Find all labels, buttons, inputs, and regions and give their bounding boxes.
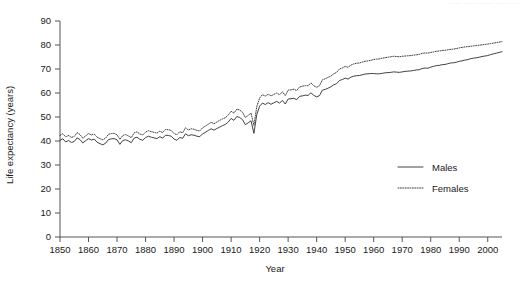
y-tick-label: 60 xyxy=(40,87,51,98)
x-tick-label: 1930 xyxy=(278,244,299,255)
x-tick-label: 1940 xyxy=(306,244,327,255)
chart-legend: Males Females xyxy=(398,162,469,194)
y-axis-title: Life expectancy (years) xyxy=(4,86,15,184)
y-tick-label: 10 xyxy=(40,207,51,218)
legend-label-males: Males xyxy=(432,162,458,173)
life-expectancy-chart-figure: ...... ...... ....... .... ... .. 010203… xyxy=(0,0,520,290)
y-tick-label: 30 xyxy=(40,159,51,170)
x-tick-label: 1870 xyxy=(106,244,127,255)
series-line-females xyxy=(60,42,502,140)
x-tick-label: 1860 xyxy=(78,244,99,255)
x-tick-label: 1980 xyxy=(420,244,441,255)
y-tick-label: 50 xyxy=(40,111,51,122)
line-chart: 0102030405060708090 18501860187018801890… xyxy=(0,0,520,290)
x-tick-label: 1900 xyxy=(192,244,213,255)
y-tick-label: 20 xyxy=(40,183,51,194)
x-tick-label: 1910 xyxy=(221,244,242,255)
y-tick-label: 80 xyxy=(40,39,51,50)
plot-series-group xyxy=(60,42,502,145)
y-tick-label: 0 xyxy=(46,231,51,242)
legend-label-females: Females xyxy=(432,183,469,194)
y-tick-label: 90 xyxy=(40,15,51,26)
y-tick-label: 70 xyxy=(40,63,51,74)
x-tick-label: 1950 xyxy=(335,244,356,255)
series-line-males xyxy=(60,52,502,145)
x-tick-label: 1920 xyxy=(249,244,270,255)
top-note-text: ...... ...... ....... .... ... .. xyxy=(330,0,520,7)
x-tick-label: 1890 xyxy=(163,244,184,255)
x-axis-ticks: 1850186018701880189019001910192019301940… xyxy=(49,237,498,255)
x-tick-label: 2000 xyxy=(477,244,498,255)
y-axis: 0102030405060708090 xyxy=(40,15,60,242)
x-axis-title: Year xyxy=(265,263,284,274)
x-tick-label: 1970 xyxy=(392,244,413,255)
y-tick-label: 40 xyxy=(40,135,51,146)
x-tick-label: 1850 xyxy=(49,244,70,255)
x-axis: 1850186018701880189019001910192019301940… xyxy=(49,237,502,255)
x-tick-label: 1990 xyxy=(449,244,470,255)
x-tick-label: 1960 xyxy=(363,244,384,255)
x-tick-label: 1880 xyxy=(135,244,156,255)
y-axis-ticks: 0102030405060708090 xyxy=(40,15,60,242)
